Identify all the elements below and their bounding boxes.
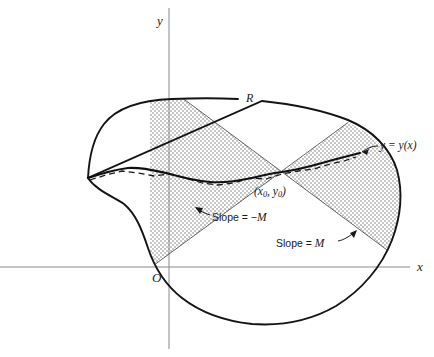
curve-label: y = y(x) [380,140,416,152]
y-axis-label: y [157,14,163,27]
slope-negative-text: Slope = − [212,211,257,223]
diagram-canvas [0,0,434,357]
slope-positive-text: Slope = [276,237,315,249]
slope-positive-label: Slope = M [276,238,324,250]
figure-container: y x O R y = y(x) (x0, y0) Slope = −M Slo… [0,0,434,357]
region-label: R [246,92,253,104]
slope-negative-label: Slope = −M [212,212,267,224]
cone-wedge-left [150,74,282,268]
point-label: (x0, y0) [254,186,286,200]
origin-label: O [152,271,161,284]
slope-negative-variable: M [257,211,267,223]
point-label-prefix: (x [254,185,263,197]
point-label-suffix: ) [282,185,286,197]
slope-positive-variable: M [315,237,325,249]
x-axis-label: x [417,260,423,273]
point-label-mid: , y [267,185,278,197]
slope-positive-arrowhead [350,230,357,238]
